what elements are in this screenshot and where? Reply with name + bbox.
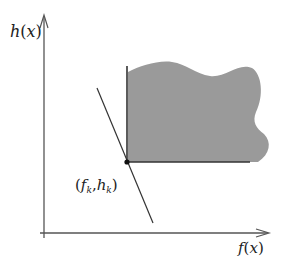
point-label: (fk,hk) (75, 176, 118, 195)
x-axis-label: f(x) (237, 239, 264, 257)
y-axis-label: h(x) (10, 22, 42, 41)
point-fk-hk (124, 159, 129, 164)
pareto-diagram: h(x) f(x) (fk,hk) (0, 0, 283, 269)
feasible-region (128, 62, 269, 162)
